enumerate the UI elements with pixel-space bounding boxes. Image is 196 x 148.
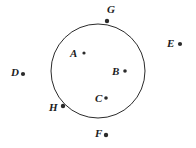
point-dot-c xyxy=(104,96,108,100)
point-label-h: H xyxy=(49,102,58,113)
point-dot-b xyxy=(123,69,127,73)
point-dot-f xyxy=(104,133,108,137)
point-label-a: A xyxy=(70,48,77,59)
point-label-b: B xyxy=(112,66,119,77)
point-label-f: F xyxy=(95,128,102,139)
point-dot-e xyxy=(178,42,182,46)
point-label-d: D xyxy=(11,67,19,78)
point-dot-g xyxy=(105,19,109,23)
point-label-g: G xyxy=(107,4,115,15)
point-dot-a xyxy=(82,51,85,54)
diagram-canvas xyxy=(0,0,196,148)
geometry-diagram: ABCDEFGH xyxy=(0,0,196,148)
point-label-e: E xyxy=(167,38,174,49)
point-dot-d xyxy=(21,72,25,76)
point-dot-h xyxy=(61,104,65,108)
point-label-c: C xyxy=(95,93,102,104)
